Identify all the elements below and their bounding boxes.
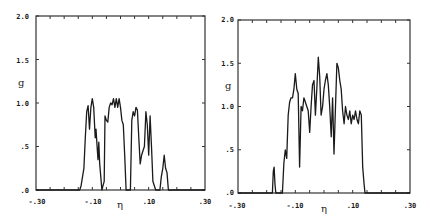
left-xtick--0.10: -.10 [85,198,102,206]
right-xtick-0.10: .10 [347,202,360,210]
right-ytick-1.5: 1.5 [221,60,234,68]
left-xtick-0.30: .30 [199,198,212,206]
left-ylabel: g [18,77,25,88]
right-xtick--0.30: -.30 [229,202,246,210]
left-plot-curve [36,99,205,190]
chart-canvas: 2.0 1.5 1.0 .5 .0 g -.30 -.10 .10 .30 η … [0,0,430,224]
right-ytick-0.0: .0 [226,189,234,197]
right-plot-frame [238,20,410,193]
right-xtick-0.30: .30 [404,202,417,210]
right-plot-ticks [238,20,410,193]
left-ytick-0.0: .0 [21,187,29,195]
right-ylabel: g [225,80,232,91]
left-xtick--0.30: -.30 [29,198,46,206]
right-ytick-2.0: 2.0 [221,16,234,24]
left-plot-frame [36,16,205,190]
left-ytick-2.0: 2.0 [16,13,29,21]
left-plot: 2.0 1.5 1.0 .5 .0 g -.30 -.10 .10 .30 η [16,13,211,210]
right-xtick--0.10: -.10 [287,202,304,210]
left-xlabel: η [117,199,123,210]
right-ytick-1.0: 1.0 [221,103,234,111]
right-plot: 2.0 1.5 1.0 .5 .0 g -.30 -.10 .10 .30 η [221,16,416,214]
left-ytick-1.5: 1.5 [16,57,29,65]
left-plot-ticks [36,16,205,190]
right-xlabel: η [321,203,327,214]
left-ytick-1.0: 1.0 [16,100,29,108]
right-plot-curve [238,57,410,193]
left-ytick-0.5: .5 [21,143,29,151]
right-ytick-0.5: .5 [226,146,234,154]
left-xtick-0.10: .10 [143,198,156,206]
